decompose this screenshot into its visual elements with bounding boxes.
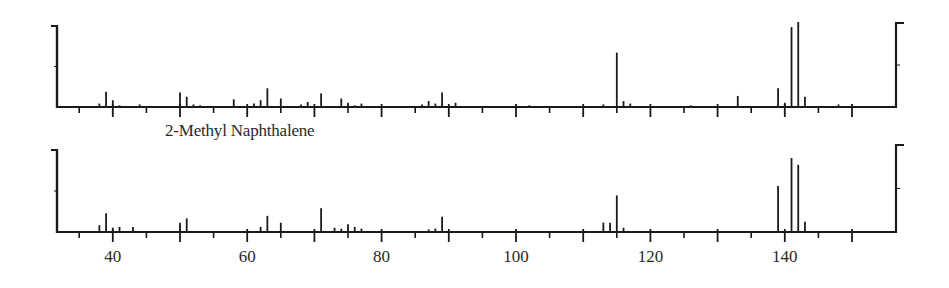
x-tick-label: 80	[373, 247, 390, 266]
x-tick-label: 60	[239, 247, 256, 266]
lower-spectrum-panel	[51, 145, 904, 242]
x-tick-label: 100	[503, 247, 529, 266]
x-tick-label: 140	[772, 247, 798, 266]
upper-spectrum-panel	[51, 22, 904, 117]
x-axis-tick-labels: 406080100120140	[104, 247, 797, 266]
compound-name-label: 2-Methyl Naphthalene	[165, 121, 314, 141]
x-tick-label: 120	[638, 247, 664, 266]
spectra-plot: 406080100120140	[0, 0, 949, 288]
x-tick-label: 40	[104, 247, 121, 266]
mass-spectrum-figure: 406080100120140 2-Methyl Naphthalene	[0, 0, 949, 288]
